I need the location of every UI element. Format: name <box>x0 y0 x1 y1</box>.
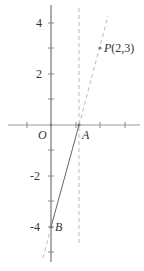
dashed-line-extension-top <box>79 16 108 125</box>
y-label-neg4: -4 <box>30 220 40 234</box>
segment-ab <box>51 125 79 227</box>
y-label-neg2: -2 <box>30 169 40 183</box>
point-a-label: A <box>81 128 90 142</box>
origin-label: O <box>38 128 47 142</box>
point-p-label: P(2,3) <box>103 41 134 55</box>
point-p <box>98 46 101 49</box>
dashed-line-extension-bottom <box>43 227 51 258</box>
point-b-label: B <box>55 220 63 234</box>
y-label-4: 4 <box>36 16 42 30</box>
point-o <box>50 124 53 127</box>
y-label-2: 2 <box>36 67 42 81</box>
coordinate-diagram: 4 2 -2 -4 O A B P(2,3) <box>0 0 144 271</box>
point-p-coords: (2,3) <box>111 41 134 55</box>
point-a <box>77 123 80 126</box>
point-b <box>49 225 52 228</box>
